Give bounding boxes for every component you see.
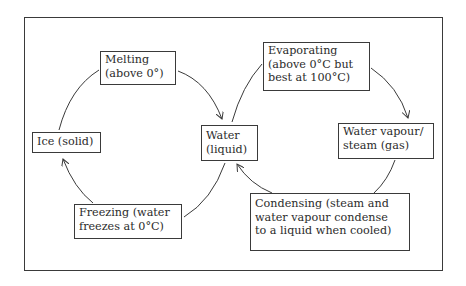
node-freezing-line-1: Freezing (water — [79, 206, 177, 220]
arrow-water-to-evaporating — [232, 64, 262, 122]
node-evaporating-line-2: (above 0°C but — [268, 58, 365, 72]
node-condensing: Condensing (steam and water vapour conde… — [250, 193, 410, 251]
node-condensing-line-1: Condensing (steam and — [255, 197, 405, 211]
node-melting: Melting (above 0°) — [100, 51, 176, 85]
arrow-ice-to-melting — [59, 70, 99, 130]
node-vapour-line-2: steam (gas) — [343, 139, 429, 153]
arrow-evaporating-to-vapour — [371, 68, 408, 118]
node-evaporating-line-1: Evaporating — [268, 44, 365, 58]
node-evaporating-line-3: best at 100°C) — [268, 71, 365, 85]
node-freezing-line-2: freezes at 0°C) — [79, 220, 177, 234]
node-condensing-line-2: water vapour condense — [255, 211, 405, 225]
node-water-line-2: (liquid) — [206, 143, 253, 157]
node-ice: Ice (solid) — [32, 132, 101, 153]
node-vapour: Water vapour/ steam (gas) — [338, 123, 434, 159]
node-ice-line-1: Ice (solid) — [37, 135, 96, 149]
node-evaporating: Evaporating (above 0°C but best at 100°C… — [263, 42, 370, 91]
node-water-line-1: Water — [206, 129, 253, 143]
node-water: Water (liquid) — [201, 125, 258, 161]
node-condensing-line-3: to a liquid when cooled) — [255, 224, 405, 238]
node-freezing: Freezing (water freezes at 0°C) — [74, 204, 182, 239]
node-vapour-line-1: Water vapour/ — [343, 125, 429, 139]
node-melting-line-1: Melting — [105, 53, 171, 67]
arrow-water-to-freezing — [184, 163, 225, 217]
arrow-melting-to-water — [178, 71, 222, 119]
arrow-vapour-to-condensing — [374, 160, 395, 193]
node-melting-line-2: (above 0°) — [105, 67, 171, 81]
arrow-freezing-to-ice — [63, 159, 93, 203]
arrow-condensing-to-water — [237, 164, 272, 193]
